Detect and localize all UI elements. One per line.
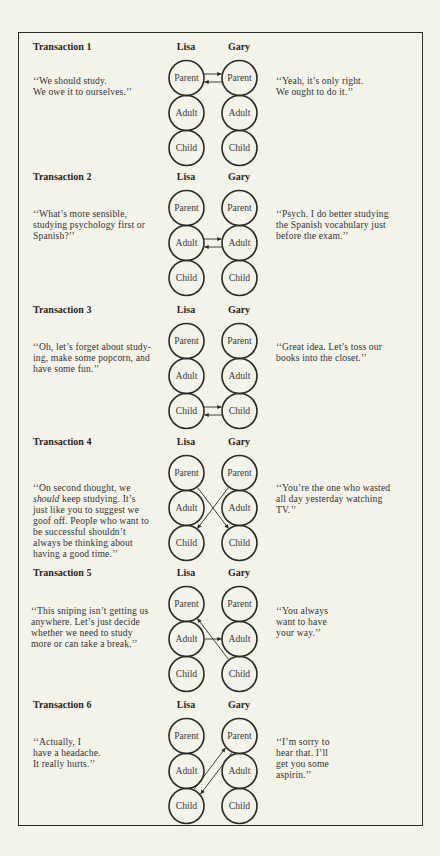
arrow-gary-child-to-lisa-parent	[197, 619, 228, 660]
ego-state-label: Child	[176, 272, 198, 283]
lisa-parent-ego-state: Parent	[169, 61, 204, 96]
ego-state-label: Adult	[176, 107, 198, 118]
gary-parent-ego-state: Parent	[222, 456, 257, 491]
quote-line: We ought to do it.’’	[276, 86, 363, 97]
ego-state-label: Parent	[227, 72, 252, 83]
lisa-child-ego-state: Child	[169, 657, 204, 692]
transaction-title: Transaction 6	[33, 698, 91, 712]
arrow-lisa-child-to-gary-parent	[194, 748, 225, 790]
quote-line: ing, make some popcorn, and	[33, 352, 151, 363]
ego-state-label: Adult	[229, 370, 251, 381]
ego-state-label: Adult	[229, 502, 251, 513]
quote-line: always be thinking about	[33, 537, 149, 548]
lisa-child-ego-state: Child	[169, 394, 204, 429]
gary-adult-ego-state: Adult	[222, 622, 257, 657]
gary-child-ego-state: Child	[222, 526, 257, 561]
quote-line: having a good time.’’	[33, 548, 149, 559]
quote-line: goof off. People who want to	[33, 515, 149, 526]
lisa-child-ego-state: Child	[169, 261, 204, 296]
ego-state-label: Adult	[176, 765, 198, 776]
lisa-adult-ego-state: Adult	[169, 491, 204, 526]
gary-adult-ego-state: Adult	[222, 226, 257, 261]
ego-state-label: Adult	[229, 237, 251, 248]
lisa-parent-ego-state: Parent	[169, 191, 204, 226]
ego-state-label: Child	[229, 537, 251, 548]
quote-line: ‘‘Oh, let’s forget about study-	[33, 341, 151, 352]
lisa-quote: ‘‘This sniping isn’t getting us anywhere…	[31, 605, 148, 649]
quote-line: ‘‘We should study.	[33, 75, 132, 86]
ego-state-label: Child	[176, 142, 198, 153]
quote-line: ‘‘I’m sorry to	[276, 736, 330, 747]
quote-line: the Spanish vocabulary just	[276, 219, 389, 230]
gary-quote: ‘‘Great idea. Let’s toss our books into …	[276, 341, 382, 363]
ego-state-diagram: ParentAdultChildParentAdultChild	[160, 303, 270, 435]
quote-line: ‘‘What’s more sensible,	[33, 208, 145, 219]
transaction-title: Transaction 1	[33, 40, 91, 54]
quote-line: anywhere. Let’s just decide	[31, 616, 148, 627]
quote-line: ‘‘Psych. I do better studying	[276, 208, 389, 219]
gary-quote: ‘‘Psych. I do better studying the Spanis…	[276, 208, 389, 241]
ego-state-label: Adult	[229, 633, 251, 644]
transaction-2: Transaction 2 Lisa Gary ParentAdultChild…	[0, 170, 440, 302]
arrow-gary-parent-to-lisa-child	[201, 752, 232, 794]
lisa-parent-ego-state: Parent	[169, 587, 204, 622]
lisa-adult-ego-state: Adult	[169, 96, 204, 131]
gary-parent-ego-state: Parent	[222, 587, 257, 622]
quote-line: more or can take a break.’’	[31, 638, 148, 649]
ego-state-label: Child	[229, 142, 251, 153]
gary-parent-ego-state: Parent	[222, 324, 257, 359]
ego-state-label: Parent	[174, 335, 199, 346]
quote-line: have a headache.	[33, 747, 101, 758]
lisa-quote: ‘‘We should study. We owe it to ourselve…	[33, 75, 132, 97]
transaction-6: Transaction 6 Lisa Gary ParentAdultChild…	[0, 698, 440, 830]
quote-line: ‘‘Yeah, it’s only right.	[276, 75, 363, 86]
quote-line: all day yesterday watching	[276, 493, 390, 504]
gary-child-ego-state: Child	[222, 131, 257, 166]
quote-line: ‘‘You’re the one who wasted	[276, 482, 390, 493]
ego-state-label: Parent	[174, 72, 199, 83]
transaction-title: Transaction 4	[33, 435, 91, 449]
ego-state-label: Child	[229, 800, 251, 811]
quote-line: It really hurts.’’	[33, 758, 101, 769]
lisa-quote: ‘‘On second thought, we should keep stud…	[33, 482, 149, 559]
lisa-adult-ego-state: Adult	[169, 226, 204, 261]
lisa-adult-ego-state: Adult	[169, 359, 204, 394]
gary-adult-ego-state: Adult	[222, 96, 257, 131]
gary-adult-ego-state: Adult	[222, 359, 257, 394]
lisa-parent-ego-state: Parent	[169, 324, 204, 359]
lisa-child-ego-state: Child	[169, 789, 204, 824]
lisa-quote: ‘‘Oh, let’s forget about study- ing, mak…	[33, 341, 151, 374]
quote-line: be successful shouldn’t	[33, 526, 149, 537]
lisa-child-ego-state: Child	[169, 526, 204, 561]
quote-line: before the exam.’’	[276, 230, 389, 241]
transaction-4: Transaction 4 Lisa Gary ParentAdultChild…	[0, 435, 440, 567]
ego-state-label: Adult	[176, 370, 198, 381]
quote-line: ‘‘On second thought, we	[33, 482, 149, 493]
transaction-title: Transaction 5	[33, 566, 91, 580]
ego-state-label: Parent	[174, 202, 199, 213]
lisa-adult-ego-state: Adult	[169, 622, 204, 657]
ego-state-diagram: ParentAdultChildParentAdultChild	[160, 566, 270, 698]
gary-quote: ‘‘I’m sorry to hear that. I’ll get you s…	[276, 736, 330, 780]
gary-child-ego-state: Child	[222, 657, 257, 692]
quote-line: whether we need to study	[31, 627, 148, 638]
quote-line: should keep studying. It’s	[33, 493, 149, 504]
quote-line: ‘‘You always	[276, 605, 328, 616]
gary-child-ego-state: Child	[222, 261, 257, 296]
quote-line: books into the closet.’’	[276, 352, 382, 363]
ego-state-label: Parent	[174, 598, 199, 609]
ego-state-diagram: ParentAdultChildParentAdultChild	[160, 435, 270, 567]
ego-state-label: Parent	[227, 335, 252, 346]
quote-line: hear that. I’ll	[276, 747, 330, 758]
quote-line: studying psychology first or	[33, 219, 145, 230]
gary-parent-ego-state: Parent	[222, 61, 257, 96]
ego-state-label: Parent	[227, 202, 252, 213]
gary-parent-ego-state: Parent	[222, 191, 257, 226]
gary-quote: ‘‘You always want to have your way.’’	[276, 605, 328, 638]
ego-state-label: Adult	[229, 107, 251, 118]
lisa-parent-ego-state: Parent	[169, 719, 204, 754]
ego-state-diagram: ParentAdultChildParentAdultChild	[160, 170, 270, 302]
quote-line: TV.’’	[276, 504, 390, 515]
transaction-1: Transaction 1 Lisa Gary ParentAdultChild…	[0, 40, 440, 172]
ego-state-label: Parent	[174, 730, 199, 741]
